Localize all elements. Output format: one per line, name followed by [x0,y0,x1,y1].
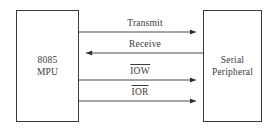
connection-label-receive-text: Receive [129,39,161,49]
connection-label-transmit-text: Transmit [127,18,163,28]
connection-label-iow: IOW [130,64,150,77]
connection-label-receive: Receive [129,39,161,50]
connection-label-iow-text: IOW [130,64,150,76]
node-8085-mpu-line2: MPU [37,66,58,79]
node-serial-peripheral-line2: Peripheral [212,66,253,79]
connection-label-ior-text: IOR [132,85,149,97]
node-8085-mpu-line1: 8085 [38,54,58,67]
node-serial-peripheral: Serial Peripheral [203,10,262,122]
connection-label-ior: IOR [132,85,149,98]
node-serial-peripheral-line1: Serial [221,54,244,67]
node-8085-mpu: 8085 MPU [16,10,79,122]
block-diagram: 8085 MPU Serial Peripheral Transmit Rece… [0,0,277,132]
connection-label-transmit: Transmit [127,18,163,29]
